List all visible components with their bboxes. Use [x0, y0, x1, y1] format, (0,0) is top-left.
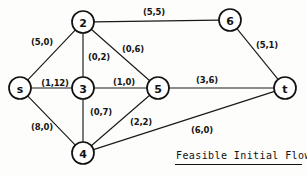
flow-network-diagram: s23456t (5,0)(5,5)(0,2)(0,6)(5,1)(1,12)(…	[0, 0, 307, 175]
edge-label-2-3: (0,2)	[88, 52, 110, 62]
edge-label-4-5: (2,2)	[130, 117, 152, 127]
edge-label-4-t: (6,0)	[191, 125, 213, 135]
node-2	[72, 11, 94, 33]
edge-label-2-5: (0,6)	[122, 44, 144, 54]
edge-label-2-6: (5,5)	[143, 7, 165, 17]
edge-label-3-4: (0,7)	[90, 107, 112, 117]
edge-label-3-5: (1,0)	[113, 77, 135, 87]
node-s	[9, 77, 31, 99]
diagram-caption: Feasible Initial Flow	[176, 150, 307, 161]
caption-underline	[175, 164, 302, 165]
node-4	[72, 142, 94, 164]
node-5	[147, 77, 169, 99]
edge-6-t	[237, 29, 278, 80]
edge-s-4	[28, 96, 76, 145]
edge-label-5-t: (3,6)	[196, 75, 218, 85]
edge-label-6-t: (5,1)	[256, 40, 278, 50]
node-3	[72, 77, 94, 99]
node-t	[274, 77, 296, 99]
edge-2-6	[94, 20, 219, 22]
edge-label-s-2: (5,0)	[31, 37, 53, 47]
node-6	[219, 9, 241, 31]
edge-label-s-3: (1,12)	[41, 78, 69, 88]
edge-label-s-4: (8,0)	[31, 122, 53, 132]
